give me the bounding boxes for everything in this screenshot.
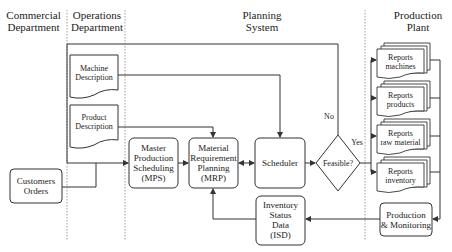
header-line: Production — [384, 9, 452, 21]
label-line: Product — [70, 113, 118, 122]
label-line: Production — [378, 210, 434, 220]
label-line: Reports — [377, 53, 424, 62]
header-line: Planning — [222, 9, 302, 21]
header-operations: Operations Department — [67, 9, 127, 33]
label-line: products — [377, 100, 424, 109]
label-line: inventory — [377, 176, 424, 185]
report-raw-material-label: Reports raw material — [377, 129, 424, 147]
label-line: raw material — [377, 138, 424, 147]
label-line: Reports — [377, 167, 424, 176]
label-line: Requirement — [187, 153, 240, 163]
label-line: (MPS) — [129, 173, 178, 183]
yes-label: Yes — [349, 138, 365, 147]
scheduler-label: Scheduler — [255, 158, 305, 168]
customers-orders-label: Customers Orders — [10, 176, 62, 196]
label-line: Reports — [377, 129, 424, 138]
label-line: machines — [377, 62, 424, 71]
report-machines-label: Reports machines — [377, 53, 424, 71]
header-line: Plant — [384, 21, 452, 33]
label-line: Inventory — [256, 200, 305, 210]
header-line: Operations — [67, 9, 127, 21]
header-production: Production Plant — [384, 9, 452, 33]
label-line: Master — [129, 143, 178, 153]
header-line: System — [222, 21, 302, 33]
label-line: Machine — [70, 64, 118, 73]
label-line: Reports — [377, 91, 424, 100]
isd-mrp-line — [213, 189, 256, 219]
machine-description-label: Machine Description — [70, 64, 118, 82]
feasible-label: Feasible? — [316, 159, 360, 168]
label-line: Description — [70, 73, 118, 82]
label-line: Customers — [10, 176, 62, 186]
label-line: Description — [70, 122, 118, 131]
header-line: Department — [67, 21, 127, 33]
mrp-label: Material Requirement Planning (MRP) — [187, 143, 240, 183]
product-description-label: Product Description — [70, 113, 118, 131]
label-line: & Monitoring — [378, 220, 434, 230]
reports-right-bracket — [430, 60, 440, 219]
label-line: Data — [256, 220, 305, 230]
label-line: Material — [187, 143, 240, 153]
label-line: (ISD) — [256, 230, 305, 240]
label-line: Planning — [187, 163, 240, 173]
report-inventory-label: Reports inventory — [377, 167, 424, 185]
header-planning: Planning System — [222, 9, 302, 33]
report-products-label: Reports products — [377, 91, 424, 109]
label-line: Production — [129, 153, 178, 163]
header-line: Commercial — [0, 9, 67, 21]
label-line: (MRP) — [187, 173, 240, 183]
isd-label: Inventory Status Data (ISD) — [256, 200, 305, 240]
label-line: Status — [256, 210, 305, 220]
label-line: Scheduling — [129, 163, 178, 173]
machine-desc-line — [118, 75, 280, 137]
label-line: Orders — [10, 186, 62, 196]
mps-label: Master Production Scheduling (MPS) — [129, 143, 178, 183]
product-desc-line — [118, 127, 213, 137]
header-line: Department — [0, 21, 67, 33]
no-label: No — [322, 112, 336, 121]
header-commercial: Commercial Department — [0, 9, 67, 33]
production-monitoring-label: Production & Monitoring — [378, 210, 434, 230]
